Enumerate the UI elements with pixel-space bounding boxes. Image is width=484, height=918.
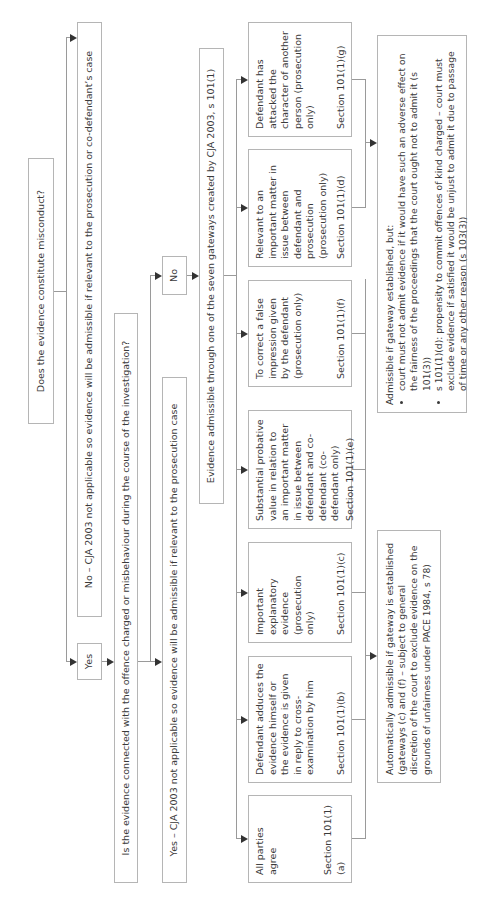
gateway-f-section: Section 101(1)(f) xyxy=(335,287,348,379)
yes-label-1: Yes xyxy=(83,654,96,669)
yes-cja-not-applicable-box: Yes – CJA 2003 not applicable so evidenc… xyxy=(162,377,187,883)
gateway-d-section: Section 101(1)(d) xyxy=(335,156,348,259)
connector-line xyxy=(352,592,365,593)
automatic-admissibility-box: Automatically admissible if gateway is e… xyxy=(377,530,441,783)
arrow-down-icon xyxy=(70,34,77,42)
gateway-e-description: Substantial probative value in relation … xyxy=(254,417,342,521)
arrow-down-icon xyxy=(241,76,248,84)
gateway-c-description: Important explanatory evidence (prosecut… xyxy=(254,549,317,635)
arrow-down-icon xyxy=(70,658,77,666)
connector-line xyxy=(352,838,365,839)
connector-line xyxy=(352,469,365,470)
arrow-down-icon xyxy=(370,139,377,147)
yes-label-box-1: Yes xyxy=(77,643,102,680)
arrow-down-icon xyxy=(155,272,162,280)
gateway-f-description: To correct a false impression given by t… xyxy=(254,287,304,379)
gateway-d-description: Relevant to an important matter in issue… xyxy=(254,156,329,259)
arrow-down-icon xyxy=(241,835,248,843)
connector-line xyxy=(66,37,67,662)
gateway-c-section: Section 101(1)(c) xyxy=(335,549,348,635)
conditional-admissibility-box: Admissible if gateway established, but: … xyxy=(377,35,467,413)
gateway-d-box: Relevant to an important matter in issue… xyxy=(248,149,352,267)
gateways-heading-box: Evidence admissible through one of the s… xyxy=(199,48,224,504)
gateway-a-box: All parties agree Section 101(1)(a) xyxy=(248,795,352,883)
gateway-c-box: Important explanatory evidence (prosecut… xyxy=(248,542,352,643)
connected-question-box: Is the evidence connected with the offen… xyxy=(114,313,138,883)
connector-line xyxy=(236,79,237,839)
misconduct-question-text: Does the evidence constitute misconduct? xyxy=(35,190,48,392)
conditional-admissibility-list: court must not admit evidence if it woul… xyxy=(396,43,469,405)
arrow-down-icon xyxy=(241,589,248,597)
gateway-e-box: Substantial probative value in relation … xyxy=(248,410,352,529)
no-label-2: No xyxy=(168,269,181,282)
connector-line xyxy=(365,79,366,208)
flowchart-canvas: Bad character of the defendant Does the … xyxy=(0,0,484,918)
misconduct-question-box: Does the evidence constitute misconduct? xyxy=(28,158,54,424)
arrow-down-icon xyxy=(241,716,248,724)
no-cja-not-applicable-text: No – CJA 2003 not applicable so evidence… xyxy=(83,51,96,588)
arrow-down-icon xyxy=(370,652,377,660)
automatic-admissibility-text: Automatically admissible if gateway is e… xyxy=(384,543,432,775)
connector-line xyxy=(150,275,151,662)
arrow-down-icon xyxy=(241,466,248,474)
connector-line xyxy=(54,291,66,292)
no-cja-not-applicable-box: No – CJA 2003 not applicable so evidence… xyxy=(77,22,102,617)
gateway-g-section: Section 101(1)(g) xyxy=(335,29,348,129)
arrow-down-icon xyxy=(155,658,162,666)
gateway-a-description: All parties agree xyxy=(254,802,279,875)
connector-line xyxy=(352,79,365,80)
arrow-down-icon xyxy=(192,272,199,280)
gateway-g-description: Defendant has attacked the character of … xyxy=(254,29,317,129)
connected-question-text: Is the evidence connected with the offen… xyxy=(120,341,133,856)
gateways-heading-text: Evidence admissible through one of the s… xyxy=(205,69,218,483)
gateway-b-description: Defendant adduces the evidence himself o… xyxy=(254,663,317,775)
connector-line xyxy=(352,333,365,334)
no-label-box-2: No xyxy=(162,256,187,295)
gateway-f-box: To correct a false impression given by t… xyxy=(248,280,352,387)
conditional-bullet-2: s 101(1)(d): propensity to commit offenc… xyxy=(433,43,470,391)
arrow-down-icon xyxy=(107,658,114,666)
conditional-bullet-1: court must not admit evidence if it woul… xyxy=(396,43,433,391)
gateway-g-box: Defendant has attacked the character of … xyxy=(248,22,352,137)
gateway-b-section: Section 101(1)(b) xyxy=(335,663,348,775)
connector-line xyxy=(352,719,365,720)
connector-line xyxy=(365,279,366,839)
connector-line xyxy=(138,661,150,662)
connector-line xyxy=(224,275,236,276)
gateway-b-box: Defendant adduces the evidence himself o… xyxy=(248,656,352,783)
connector-line xyxy=(352,207,365,208)
yes-cja-not-applicable-text: Yes – CJA 2003 not applicable so evidenc… xyxy=(168,404,181,857)
arrow-down-icon xyxy=(241,330,248,338)
gateway-a-section: Section 101(1)(a) xyxy=(322,802,347,875)
conditional-admissibility-intro: Admissible if gateway established, but: xyxy=(384,43,396,405)
arrow-down-icon xyxy=(241,204,248,212)
